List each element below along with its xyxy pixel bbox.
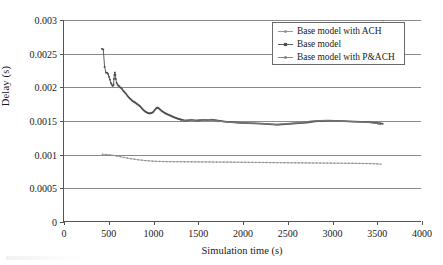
legend-label-1: Base model — [297, 39, 341, 50]
x-tick-label: 0 — [62, 228, 67, 239]
legend-item-2[interactable]: Base model with P&ACH — [277, 51, 401, 64]
legend-marker-icon-0 — [277, 26, 294, 37]
x-axis-title: Simulation time (s) — [63, 245, 421, 256]
legend-label-2: Base model with P&ACH — [297, 52, 395, 63]
x-tick-label: 1500 — [188, 228, 208, 239]
x-tick-label: 500 — [101, 228, 116, 239]
y-tick-label: 0.003 — [35, 15, 58, 26]
x-tick — [377, 221, 378, 225]
legend-marker-icon-2 — [277, 52, 294, 63]
x-tick — [64, 221, 65, 225]
y-tick-label: 0.0005 — [30, 183, 58, 194]
y-tick-label: 0 — [52, 217, 57, 228]
x-tick-label: 1000 — [144, 228, 164, 239]
x-tick-label: 4000 — [412, 228, 432, 239]
x-tick — [154, 221, 155, 225]
y-axis-title: Delay (s) — [0, 41, 16, 131]
x-tick-label: 2000 — [233, 228, 253, 239]
y-tick-label: 0.0015 — [30, 116, 58, 127]
y-tick-label: 0.001 — [35, 149, 58, 160]
caption-remnant — [6, 256, 84, 260]
x-tick-label: 3500 — [367, 228, 387, 239]
x-tick — [333, 221, 334, 225]
legend-item-0[interactable]: Base model with ACH — [277, 25, 401, 38]
x-tick — [243, 221, 244, 225]
x-tick-label: 2500 — [278, 228, 298, 239]
x-tick — [288, 221, 289, 225]
legend-item-1[interactable]: Base model — [277, 38, 401, 51]
y-tick-label: 0.002 — [35, 82, 58, 93]
figure-container: Delay (s) Simulation time (s) 00.00050.0… — [0, 0, 443, 265]
x-tick — [109, 221, 110, 225]
x-tick-label: 3000 — [323, 228, 343, 239]
x-tick — [422, 221, 423, 225]
series-0 — [102, 154, 382, 165]
legend: Base model with ACH Base model Base mode… — [272, 22, 405, 65]
legend-marker-icon-1 — [277, 39, 294, 50]
legend-label-0: Base model with ACH — [297, 26, 382, 37]
x-tick — [198, 221, 199, 225]
y-tick-label: 0.0025 — [30, 48, 58, 59]
